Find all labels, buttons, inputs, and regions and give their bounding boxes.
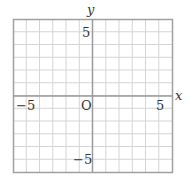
- y-axis-label: y: [87, 3, 94, 16]
- x-tick-pos5: 5: [156, 99, 164, 112]
- y-tick-neg5: −5: [73, 153, 92, 166]
- x-tick-neg5: −5: [16, 99, 35, 112]
- x-axis-label: x: [175, 89, 182, 102]
- origin-label: O: [81, 99, 92, 112]
- coordinate-grid: [0, 0, 193, 182]
- y-tick-pos5: 5: [82, 26, 90, 39]
